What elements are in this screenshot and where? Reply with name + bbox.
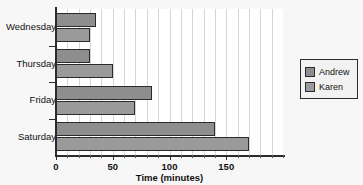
legend-swatch-icon-karen — [305, 82, 315, 92]
legend-swatch-icon-andrew — [305, 67, 315, 77]
bar-series-group — [56, 9, 283, 155]
bar-saturday-andrew — [56, 122, 215, 136]
category-label-saturday: Saturday — [18, 131, 56, 142]
legend-label-andrew: Andrew — [319, 67, 350, 77]
x-axis-tick-minor — [192, 155, 193, 158]
bar-chart: WednesdayThursdayFridaySaturday 05010015… — [0, 0, 363, 185]
x-axis-tick-minor — [181, 155, 182, 158]
y-axis-tick — [49, 82, 55, 83]
x-axis-tick-minor — [90, 155, 91, 158]
x-tick-label-100: 100 — [162, 161, 178, 172]
x-axis-tick-minor — [158, 155, 159, 158]
bar-thursday-karen — [56, 64, 113, 78]
x-axis-tick-minor — [249, 155, 250, 158]
bar-wednesday-karen — [56, 28, 90, 42]
x-tick-label-50: 50 — [107, 161, 118, 172]
legend: Andrew Karen — [300, 59, 358, 99]
plot-area — [56, 9, 283, 155]
x-axis-tick-minor — [283, 155, 284, 158]
category-label-friday: Friday — [30, 94, 56, 105]
x-axis-tick-minor — [67, 155, 68, 158]
x-axis-tick-major — [56, 155, 57, 160]
legend-item-andrew[interactable]: Andrew — [305, 65, 353, 79]
x-axis-tick-minor — [260, 155, 261, 158]
x-axis-tick-minor — [101, 155, 102, 158]
bar-saturday-karen — [56, 137, 249, 151]
legend-label-karen: Karen — [319, 82, 343, 92]
x-axis-tick-minor — [147, 155, 148, 158]
legend-item-karen[interactable]: Karen — [305, 80, 353, 94]
bar-friday-karen — [56, 101, 135, 115]
x-axis-tick-minor — [124, 155, 125, 158]
x-tick-label-0: 0 — [53, 161, 58, 172]
x-axis-tick-minor — [238, 155, 239, 158]
x-axis-tick-minor — [215, 155, 216, 158]
y-axis-tick — [49, 46, 55, 47]
x-axis-tick-minor — [272, 155, 273, 158]
x-axis-tick-minor — [135, 155, 136, 158]
bar-thursday-andrew — [56, 49, 90, 63]
x-axis-tick-major — [226, 155, 227, 160]
y-axis-tick — [49, 119, 55, 120]
x-tick-label-150: 150 — [218, 161, 234, 172]
x-axis-tick-major — [170, 155, 171, 160]
x-axis-title: Time (minutes) — [56, 172, 283, 183]
bar-wednesday-andrew — [56, 13, 96, 27]
x-axis-tick-minor — [204, 155, 205, 158]
bar-friday-andrew — [56, 86, 152, 100]
category-label-thursday: Thursday — [16, 58, 56, 69]
x-axis-tick-major — [113, 155, 114, 160]
x-axis-tick-minor — [79, 155, 80, 158]
category-label-wednesday: Wednesday — [6, 21, 56, 32]
